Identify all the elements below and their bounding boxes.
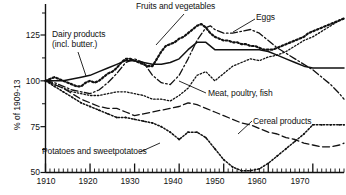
x-tick-label-1950: 1950 (198, 176, 232, 186)
x-tick-label-1930: 1930 (113, 176, 147, 186)
x-tick-label-1910: 1910 (29, 176, 63, 186)
y-tick-label-100: 100 (18, 76, 40, 86)
annotation-potatoes-and-sweetpotatoes: Potatoes and sweetpotatoes (42, 147, 147, 157)
annotation-eggs: Eggs (256, 13, 275, 23)
x-tick-label-1920: 1920 (71, 176, 105, 186)
annotation-meat-poultry-fish: Meat, poultry, fish (208, 89, 273, 99)
annotation-fruits-and-vegetables: Fruits and vegetables (136, 2, 215, 12)
annotation-dairy-products-line2: (incl. butter.) (52, 40, 97, 50)
figure-caption (0, 187, 346, 195)
y-tick-label-125: 125 (18, 30, 40, 40)
x-tick-label-1970: 1970 (283, 176, 317, 186)
x-tick-label-1940: 1940 (156, 176, 190, 186)
annotation-cereal-products: Cereal products (253, 117, 312, 127)
chart-figure: % of 1909-13 125 100 75 50 1910 1920 193… (0, 0, 346, 195)
series-cereal-products (46, 81, 345, 147)
y-tick-label-75: 75 (18, 122, 40, 132)
x-minor-ticks (50, 169, 344, 173)
x-tick-label-1960: 1960 (240, 176, 274, 186)
